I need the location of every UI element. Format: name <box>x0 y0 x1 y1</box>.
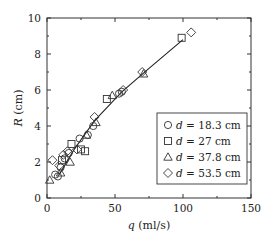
diamond-marker <box>187 28 196 37</box>
legend-entry-label: d = 27 cm <box>176 135 231 147</box>
x-tick-label: 50 <box>108 202 121 214</box>
y-axis-label: R (cm) <box>12 90 25 128</box>
diamond-marker <box>48 156 57 165</box>
y-tick-label: 6 <box>34 84 41 96</box>
x-tick-label: 100 <box>173 202 193 214</box>
square-marker <box>82 148 89 155</box>
legend-entry-label: d = 53.5 cm <box>176 167 241 179</box>
y-tick-label: 0 <box>34 192 41 204</box>
y-tick-label: 8 <box>34 48 41 60</box>
x-axis-label: q (ml/s) <box>128 219 170 232</box>
square-marker <box>68 141 75 148</box>
x-tick-label: 0 <box>44 202 51 214</box>
legend-entry-label: d = 18.3 cm <box>176 119 241 131</box>
x-tick-label: 150 <box>241 202 261 214</box>
y-tick-label: 4 <box>34 120 41 132</box>
legend: d = 18.3 cmd = 27 cmd = 37.8 cmd = 53.5 … <box>157 113 247 184</box>
y-tick-label: 2 <box>34 156 41 168</box>
y-tick-label: 10 <box>28 12 41 24</box>
triangle-marker <box>108 91 116 98</box>
scatter-chart: 0501001500246810 d = 18.3 cmd = 27 cmd =… <box>0 0 271 238</box>
legend-entry-label: d = 37.8 cm <box>176 151 241 163</box>
